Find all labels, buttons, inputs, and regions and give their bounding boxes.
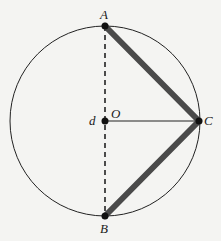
point-C: [196, 118, 203, 125]
label-C: C: [204, 114, 213, 127]
label-O: O: [111, 107, 120, 120]
point-A: [102, 23, 109, 30]
label-B: B: [100, 222, 108, 235]
chord-CB: [105, 121, 199, 216]
point-B: [102, 213, 109, 220]
diagram-canvas: A B C O d: [0, 0, 221, 241]
label-d: d: [89, 114, 96, 127]
point-O: [102, 118, 109, 125]
label-A: A: [100, 8, 108, 21]
